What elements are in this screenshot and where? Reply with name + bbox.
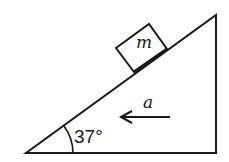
incline-triangle <box>26 15 216 153</box>
angle-arc <box>64 126 73 153</box>
block-mass-label: m <box>136 34 152 51</box>
acceleration-arrow-icon <box>121 111 170 123</box>
diagram-graphics <box>0 0 229 162</box>
angle-label: 37° <box>74 127 103 146</box>
inclined-plane-diagram: m a 37° <box>0 0 229 162</box>
acceleration-label: a <box>143 94 153 111</box>
